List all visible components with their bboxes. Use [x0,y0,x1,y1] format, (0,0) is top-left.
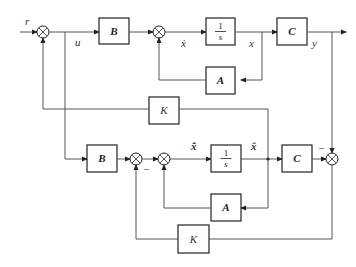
minus-sign-out: − [318,142,325,154]
block-A-bot-label: A [221,201,229,213]
block-C-bot-label: C [293,152,301,164]
signal-u-label: u [75,36,81,48]
integrator-top: 1 s [206,18,235,45]
signal-xdot-label: ẋ [180,37,186,49]
integrator-bot-num: 1 [224,148,229,158]
u-to-B-bot-wire [65,32,87,159]
sum-junction-3 [130,153,142,165]
xhat-to-A-wire [241,159,268,208]
integrator-top-den: s [219,32,223,42]
signal-y-label: y [311,37,317,49]
K-to-sum3-wire [136,165,178,239]
block-C-bot: C [282,145,312,172]
A-to-sum4-wire [164,165,211,208]
minus-sign-obs: − [143,163,150,175]
sum-junction-1 [37,26,49,38]
block-B-bot-label: B [97,152,105,164]
block-B-top: B [99,18,129,44]
block-A-bot: A [211,194,241,221]
block-B-top-label: B [109,25,117,37]
signal-x-label: x [248,37,254,49]
integrator-top-num: 1 [218,21,223,31]
sum-junction-2 [153,26,165,38]
block-K-bot-label: K [189,233,198,245]
signal-r-label: r [25,15,30,27]
block-diagram: r u B ẋ 1 s x C y A K [0,0,356,267]
block-B-bot: B [87,145,117,172]
integrator-bot: 1 s [211,145,241,172]
sum-junction-4 [158,153,170,165]
integrator-bot-den: s [224,159,228,169]
block-C-top-label: C [288,25,296,37]
K-to-sum1-wire [43,38,149,109]
signal-xhat-dot-label: x̂̇ [190,140,197,152]
block-C-top: C [277,18,307,45]
sum-junction-5 [326,153,338,165]
block-K-top: K [149,97,179,124]
block-K-bot: K [178,225,209,253]
signal-xhat-label: x̂ [250,140,257,152]
block-A-top: A [206,67,235,94]
block-K-top-label: K [159,104,168,116]
block-A-top-label: A [216,74,224,86]
